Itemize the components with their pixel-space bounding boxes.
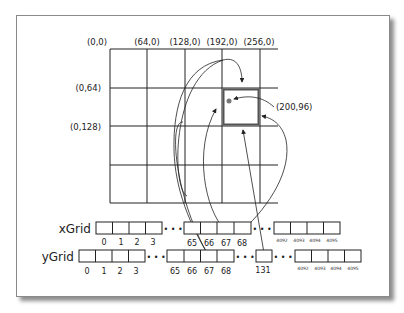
xgrid-index: 4095 (326, 238, 338, 243)
row-label: (0,128) (70, 122, 101, 132)
col-label: (0,0) (87, 37, 107, 47)
ygrid-index: 66 (187, 267, 197, 276)
xgrid-index: 4092 (276, 238, 288, 243)
ygrid-array (79, 250, 361, 262)
arrow-point-label (234, 97, 274, 107)
col-label: (128,0) (170, 37, 201, 47)
ygrid-index: 131 (255, 266, 270, 275)
xgrid-label: xGrid (59, 222, 91, 236)
col-label: (192,0) (207, 37, 238, 47)
highlighted-cell (224, 90, 259, 125)
xgrid-index: 66 (204, 239, 214, 248)
ellipsis: • • • (235, 253, 254, 262)
xgrid-index: 4094 (309, 238, 321, 243)
ygrid-index: 4092 (297, 266, 309, 271)
xgrid-index: 68 (237, 239, 247, 248)
query-point (227, 99, 232, 104)
xgrid-index: 67 (221, 239, 231, 248)
point-label: (200,96) (276, 102, 312, 112)
arrow-xgrid68 (243, 116, 287, 230)
col-label: (256,0) (244, 37, 275, 47)
ygrid-index: 4095 (347, 266, 359, 271)
ygrid-index: 1 (101, 267, 106, 276)
xgrid-index: 0 (101, 238, 106, 247)
xgrid-index: 65 (187, 239, 197, 248)
ygrid-index: 68 (221, 267, 231, 276)
ygrid-index: 0 (84, 267, 89, 276)
grid (110, 49, 278, 203)
xgrid-index: 2 (134, 238, 139, 247)
xgrid-index: 3 (150, 238, 155, 247)
arrow-ygrid131 (243, 130, 264, 253)
arrow-xgrid67 (178, 59, 242, 196)
ygrid-index: 4093 (314, 266, 326, 271)
ygrid-index: 4094 (330, 266, 342, 271)
spatial-grid-diagram: (0,0) (64,0) (128,0) (192,0) (256,0) (0,… (0, 0, 404, 313)
ellipsis: • • • (146, 253, 165, 262)
xgrid-array (96, 222, 340, 234)
xgrid-index: 1 (118, 238, 123, 247)
col-label: (64,0) (134, 37, 160, 47)
row-label: (0,64) (75, 83, 101, 93)
ygrid-label: yGrid (42, 250, 74, 264)
ellipsis: • • • (252, 225, 271, 234)
ygrid-index: 65 (170, 267, 180, 276)
ellipsis: • • • (273, 253, 292, 262)
ellipsis: • • • (163, 225, 182, 234)
ygrid-index: 3 (133, 267, 138, 276)
xgrid-index: 4093 (293, 238, 305, 243)
ygrid-index: 2 (117, 267, 122, 276)
ygrid-index: 67 (204, 267, 214, 276)
